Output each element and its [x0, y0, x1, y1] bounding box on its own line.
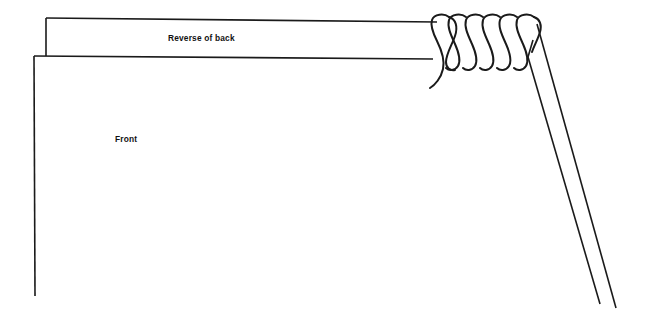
coil-loop-3 — [463, 15, 483, 70]
wrap-inner-diagonal — [528, 57, 600, 304]
label-front: Front — [115, 133, 137, 144]
label-reverse-of-back: Reverse of back — [168, 32, 235, 43]
coil-loop-1 — [430, 15, 449, 88]
coil-loop-5 — [497, 15, 517, 70]
coil-loop-6 — [514, 15, 534, 70]
diagram-canvas: Reverse of back Front — [0, 0, 658, 325]
technical-line-drawing — [0, 0, 658, 325]
flap-top-edge — [46, 18, 437, 22]
back-panel-wrap-diagonals — [528, 24, 616, 308]
spiral-coil-binding — [430, 15, 541, 88]
front-panel-outline — [34, 56, 433, 296]
coil-loop-4 — [480, 15, 500, 70]
reverse-of-back-flap-outline — [46, 18, 437, 56]
wrap-connector — [528, 40, 533, 57]
front-panel-top-edge — [34, 56, 433, 59]
wrap-outer-diagonal — [537, 24, 616, 308]
front-panel-left-edge — [34, 56, 35, 296]
